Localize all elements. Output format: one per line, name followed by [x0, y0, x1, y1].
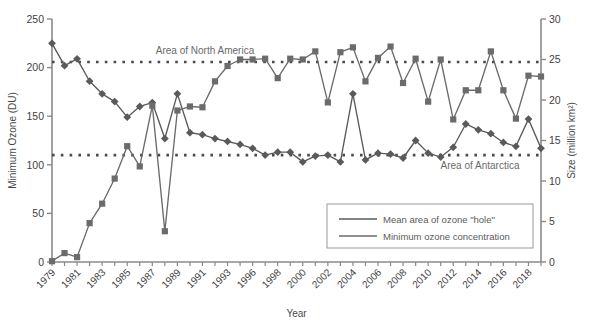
data-point-marker[interactable] — [199, 104, 205, 110]
y-axis-left-tick-label: 50 — [32, 207, 44, 219]
chart-canvas: 0501001502002500510152025301979198119831… — [0, 0, 589, 325]
y-axis-right-tick-label: 5 — [549, 215, 555, 227]
data-point-marker[interactable] — [174, 107, 180, 113]
x-axis-tick-label: 1998 — [260, 266, 284, 290]
data-point-marker[interactable] — [387, 43, 393, 49]
data-point-marker[interactable] — [349, 90, 357, 98]
data-point-marker[interactable] — [325, 99, 331, 105]
data-point-marker[interactable] — [462, 120, 470, 128]
data-point-marker[interactable] — [375, 55, 381, 61]
x-axis-title: Year — [286, 308, 307, 319]
data-point-marker[interactable] — [275, 75, 281, 81]
y-axis-right-tick-label: 0 — [549, 256, 555, 268]
data-point-marker[interactable] — [74, 254, 80, 260]
x-axis-tick-label: 1993 — [209, 266, 233, 290]
data-point-marker[interactable] — [312, 48, 318, 54]
data-point-marker[interactable] — [311, 152, 319, 160]
data-point-marker[interactable] — [186, 129, 194, 137]
data-point-marker[interactable] — [211, 135, 219, 143]
data-point-marker[interactable] — [525, 115, 533, 123]
y-axis-left-tick-label: 0 — [38, 256, 44, 268]
data-point-marker[interactable] — [350, 44, 356, 50]
data-point-marker[interactable] — [112, 175, 118, 181]
x-axis-tick-label: 2010 — [410, 266, 434, 290]
x-axis-tick-label: 1991 — [184, 266, 208, 290]
data-point-marker[interactable] — [474, 126, 482, 134]
data-point-marker[interactable] — [224, 138, 232, 146]
data-point-marker[interactable] — [61, 250, 67, 256]
data-point-marker[interactable] — [48, 39, 56, 47]
y-axis-left-title: Minimum Ozone (DU) — [7, 92, 18, 189]
data-point-marker[interactable] — [450, 116, 456, 122]
y-axis-right-tick-label: 25 — [549, 53, 561, 65]
data-point-marker[interactable] — [199, 131, 207, 139]
data-point-marker[interactable] — [488, 48, 494, 54]
data-point-marker[interactable] — [413, 56, 419, 62]
data-point-marker[interactable] — [463, 87, 469, 93]
data-point-marker[interactable] — [237, 56, 243, 62]
x-axis-tick-label: 2018 — [510, 266, 534, 290]
y-axis-right-tick-label: 10 — [549, 175, 561, 187]
x-axis-tick-label: 2002 — [310, 266, 334, 290]
legend-item-label: Mean area of ozone "hole" — [383, 214, 495, 225]
x-axis-tick-label: 2000 — [285, 266, 309, 290]
data-point-marker[interactable] — [513, 116, 519, 122]
data-point-marker[interactable] — [512, 142, 520, 150]
data-point-marker[interactable] — [87, 220, 93, 226]
x-axis-tick-label: 2016 — [485, 266, 509, 290]
x-axis-tick-label: 1979 — [34, 266, 58, 290]
data-point-marker[interactable] — [500, 87, 506, 93]
data-point-marker[interactable] — [475, 87, 481, 93]
data-point-marker[interactable] — [487, 130, 495, 138]
data-point-marker[interactable] — [300, 56, 306, 62]
data-point-marker[interactable] — [161, 135, 169, 143]
y-axis-right-tick-label: 30 — [549, 13, 561, 25]
data-point-marker[interactable] — [249, 144, 257, 152]
data-point-marker[interactable] — [400, 80, 406, 86]
data-point-marker[interactable] — [224, 63, 230, 69]
data-point-marker[interactable] — [374, 149, 382, 157]
data-point-marker[interactable] — [274, 148, 282, 156]
annotation-north-america: Area of North America — [156, 45, 255, 56]
data-point-marker[interactable] — [124, 143, 130, 149]
data-point-marker[interactable] — [187, 103, 193, 109]
x-axis-tick-label: 1996 — [235, 266, 259, 290]
data-point-marker[interactable] — [538, 73, 544, 79]
x-axis-tick-label: 2006 — [360, 266, 384, 290]
data-point-marker[interactable] — [537, 144, 545, 152]
data-point-marker[interactable] — [337, 49, 343, 55]
data-point-marker[interactable] — [250, 56, 256, 62]
x-axis-tick-label: 2008 — [385, 266, 409, 290]
y-axis-left-tick-label: 150 — [26, 110, 44, 122]
y-axis-right-tick-label: 20 — [549, 94, 561, 106]
x-axis-tick-label: 1989 — [159, 266, 183, 290]
x-axis-tick-label: 1981 — [59, 266, 83, 290]
data-point-marker[interactable] — [287, 56, 293, 62]
data-point-marker[interactable] — [149, 103, 155, 109]
data-point-marker[interactable] — [324, 151, 332, 159]
data-point-marker[interactable] — [261, 151, 269, 159]
data-point-marker[interactable] — [99, 201, 105, 207]
data-point-marker[interactable] — [438, 56, 444, 62]
data-point-marker[interactable] — [525, 73, 531, 79]
data-point-marker[interactable] — [362, 156, 370, 164]
y-axis-right-tick-label: 15 — [549, 134, 561, 146]
data-point-marker[interactable] — [137, 163, 143, 169]
data-point-marker[interactable] — [499, 139, 507, 147]
x-axis-tick-label: 2012 — [435, 266, 459, 290]
data-point-marker[interactable] — [336, 158, 344, 166]
data-point-marker[interactable] — [387, 150, 395, 158]
data-point-marker[interactable] — [362, 78, 368, 84]
data-point-marker[interactable] — [236, 140, 244, 148]
x-axis-tick-label: 1987 — [134, 266, 158, 290]
legend-item-label: Minimum ozone concentration — [383, 231, 510, 242]
data-point-marker[interactable] — [162, 228, 168, 234]
y-axis-left-tick-label: 200 — [26, 61, 44, 73]
x-axis-tick-label: 1983 — [84, 266, 108, 290]
data-point-marker[interactable] — [262, 56, 268, 62]
annotation-antarctica: Area of Antarctica — [441, 160, 520, 171]
data-point-marker[interactable] — [425, 99, 431, 105]
data-point-marker[interactable] — [49, 258, 55, 264]
data-point-marker[interactable] — [173, 90, 181, 98]
data-point-marker[interactable] — [212, 78, 218, 84]
